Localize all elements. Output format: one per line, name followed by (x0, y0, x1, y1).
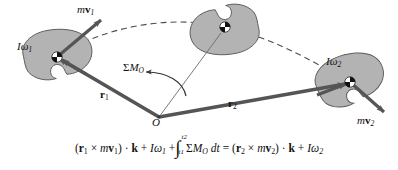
label-angular-momentum-2: Iω2 (326, 55, 341, 69)
eq-omega-2: ω (311, 142, 319, 154)
label-v-1-sub: 1 (90, 8, 94, 17)
eq-omega-1: ω (154, 142, 162, 154)
center-of-mass-marker-mid (220, 22, 230, 32)
label-r-1-sub: 1 (105, 93, 109, 102)
integral-lower-sub: 1 (181, 148, 185, 156)
eq-M: M (193, 142, 203, 154)
integral-upper-sub: 2 (184, 133, 188, 141)
label-omega-2-sub: 2 (337, 60, 341, 69)
center-of-mass-marker-2 (345, 77, 355, 87)
equation: (r1 × mv1) · k + Iω1 +∫t2t1ΣMO dt = (r2 … (0, 140, 398, 156)
label-origin-O: O (152, 116, 160, 128)
label-M: M (129, 61, 138, 73)
label-moment-sum: ΣMO (123, 61, 144, 75)
label-radius-2: r2 (228, 97, 237, 111)
eq-dt: dt (211, 142, 220, 154)
equation-rhs: (r2 × mv2) · k + Iω2 (232, 142, 323, 154)
integral-limits: t2t1 (182, 140, 187, 154)
integral-upper-limit: t2 (182, 134, 187, 141)
label-v-2-sub: 2 (370, 119, 374, 128)
label-m-1: m (77, 3, 85, 15)
line-O-to-mid-body (159, 33, 221, 117)
equation-lhs: (r1 × mv1) · k + Iω1 + (75, 142, 175, 154)
label-momentum-2: mv2 (357, 114, 374, 128)
equation-integral: ∫t2t1ΣMO dt (175, 142, 219, 154)
eq-sigma: Σ (186, 142, 193, 154)
center-of-mass-marker-1 (52, 52, 62, 62)
label-radius-1: r1 (100, 88, 109, 102)
position-vector-r2 (159, 84, 345, 117)
label-m-2: m (357, 114, 365, 126)
label-M-sub: O (139, 66, 144, 75)
label-omega-1-sub: 1 (28, 45, 32, 54)
label-momentum-1: mv1 (77, 3, 94, 17)
integral-lower-limit: t1 (179, 149, 184, 156)
label-angular-momentum-1: Iω1 (17, 40, 32, 54)
label-r-2-sub: 2 (233, 102, 237, 111)
moment-arrow-curved (146, 72, 186, 96)
eq-omega-2-sub: 2 (319, 147, 323, 156)
